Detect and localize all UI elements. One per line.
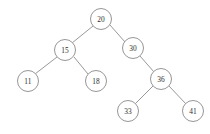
tree-node-36: 36 xyxy=(151,69,172,90)
tree-node-41: 41 xyxy=(183,101,204,122)
tree-edge-36-41 xyxy=(169,86,186,104)
tree-node-label-33: 33 xyxy=(124,107,132,116)
tree-node-20: 20 xyxy=(91,9,112,30)
tree-edge-36-33 xyxy=(135,86,153,104)
tree-node-label-30: 30 xyxy=(129,44,137,53)
tree-edge-15-11 xyxy=(35,57,57,74)
tree-node-30: 30 xyxy=(123,38,144,59)
tree-node-33: 33 xyxy=(118,101,139,122)
tree-edge-20-15 xyxy=(72,26,93,43)
tree-edge-15-18 xyxy=(74,57,88,74)
tree-node-label-11: 11 xyxy=(24,77,32,86)
tree-node-label-20: 20 xyxy=(97,15,105,24)
tree-edge-30-36 xyxy=(140,56,154,72)
tree-edges-group xyxy=(35,25,186,104)
tree-node-label-41: 41 xyxy=(189,107,197,116)
tree-node-15: 15 xyxy=(55,40,76,61)
tree-node-label-36: 36 xyxy=(157,75,165,84)
tree-node-label-18: 18 xyxy=(92,77,100,86)
binary-tree-diagram: 2015301118363341 xyxy=(0,0,210,134)
tree-edge-20-30 xyxy=(110,25,125,42)
tree-node-label-15: 15 xyxy=(61,46,69,55)
tree-node-11: 11 xyxy=(18,71,39,92)
tree-canvas: 2015301118363341 xyxy=(0,0,210,134)
tree-node-18: 18 xyxy=(86,71,107,92)
